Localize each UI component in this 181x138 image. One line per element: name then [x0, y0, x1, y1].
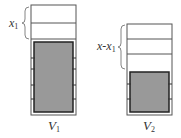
filled-volume-v1: [34, 42, 73, 112]
filled-volume-v2: [130, 72, 169, 112]
brace-icon: [118, 25, 125, 69]
brace-label-v1: x1: [8, 16, 18, 31]
brace-icon: [22, 7, 29, 39]
volume-diagram: x1 V1 x-x1 V2: [0, 0, 181, 138]
brace-label-v2: x-x1: [96, 39, 116, 54]
label-v2: V2: [143, 118, 155, 134]
label-v1: V1: [48, 118, 60, 134]
container-v1: x1 V1: [8, 5, 76, 134]
container-v2: x-x1 V2: [96, 24, 172, 134]
